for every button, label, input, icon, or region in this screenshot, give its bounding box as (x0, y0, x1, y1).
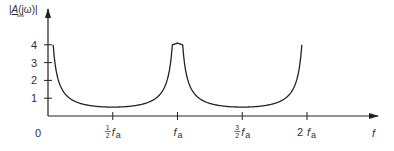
y-tick-label: 3 (31, 57, 37, 69)
y-tick-label: 1 (31, 92, 37, 104)
series-line-0 (53, 43, 302, 107)
x-tick-label: 12fa (105, 124, 121, 140)
x-tick-label: 2fa (297, 126, 316, 140)
x-tick-label: fa (174, 126, 183, 140)
y-tick-label: 2 (31, 74, 37, 86)
frequency-response-chart: 123412fafa32fa2fa0f|A(jω)| (0, 0, 394, 151)
x-axis-label: f (372, 127, 376, 139)
tick-prefix: 2 (297, 126, 303, 138)
fraction-denominator: 2 (106, 132, 110, 139)
y-axis-label: |A(jω)| (9, 4, 38, 15)
y-tick-label: 4 (31, 39, 37, 51)
origin-label: 0 (35, 127, 41, 139)
x-tick-label: 32fa (234, 124, 250, 140)
tick-subscript: a (245, 130, 250, 140)
tick-subscript: a (178, 130, 183, 140)
fraction-numerator: 1 (106, 124, 110, 131)
tick-subscript: a (311, 130, 316, 140)
fraction-numerator: 3 (235, 124, 239, 131)
fraction-denominator: 2 (235, 132, 239, 139)
tick-subscript: a (116, 130, 121, 140)
